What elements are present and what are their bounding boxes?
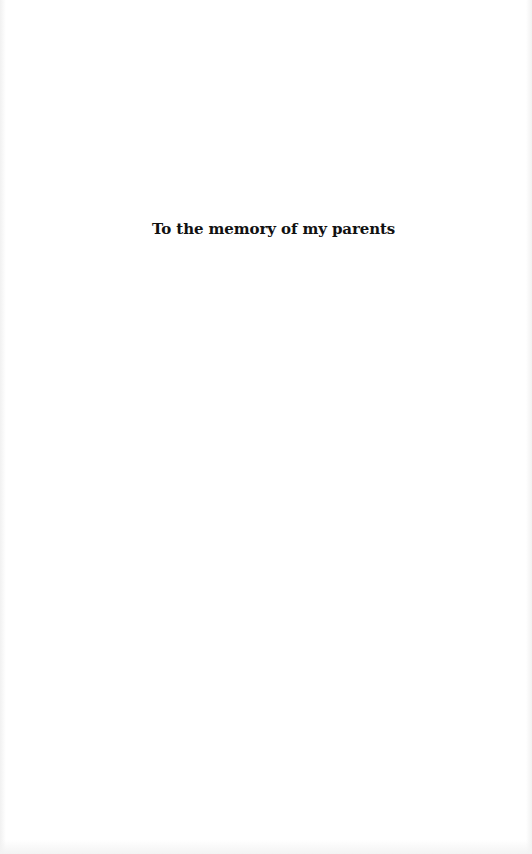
scan-edge-left xyxy=(0,0,6,854)
scan-edge-bottom xyxy=(0,840,532,854)
dedication-text: To the memory of my parents xyxy=(152,218,362,240)
book-page: To the memory of my parents xyxy=(0,0,532,854)
scan-edge-right xyxy=(526,0,532,854)
